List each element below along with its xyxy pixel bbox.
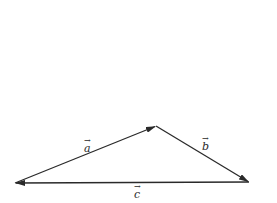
vector-c-arrow xyxy=(16,182,249,183)
vector-triangle-diagram: → a → b → c xyxy=(0,0,277,203)
diagram-svg xyxy=(0,0,277,203)
vector-a-label: → a xyxy=(84,143,91,154)
vector-b-label: → b xyxy=(202,141,209,152)
vector-c-label: → c xyxy=(134,189,140,200)
vector-arrow-icon: → xyxy=(84,137,91,145)
vector-arrow-icon: → xyxy=(134,183,141,191)
vector-arrow-icon: → xyxy=(202,135,209,143)
